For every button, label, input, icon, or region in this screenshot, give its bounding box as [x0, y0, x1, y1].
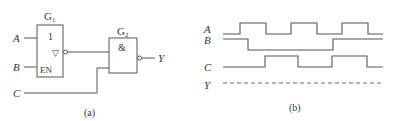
gate2-label: G2 [117, 25, 129, 39]
signal-y-label: Y [204, 79, 212, 91]
gate2-inverter-bubble-icon [138, 56, 142, 60]
timing-diagram: A B C Y (b) [203, 23, 383, 114]
gate1-inverter-bubble-icon [64, 50, 68, 54]
input-b-label: B [13, 61, 20, 73]
input-a-label: A [12, 32, 20, 44]
gate2-symbol: & [118, 42, 126, 53]
signal-b-label: B [204, 34, 211, 46]
caption-b: (b) [289, 102, 301, 114]
enable-label: EN [40, 65, 52, 75]
waveform-a [223, 23, 383, 34]
output-y-label: Y [158, 52, 166, 64]
caption-a: (a) [84, 107, 95, 119]
logic-diagram: G1 1 ▽ EN A B C G2 & Y (a) A B C Y [0, 0, 393, 121]
tristate-triangle-icon: ▽ [52, 48, 59, 58]
gate1-symbol: 1 [48, 31, 53, 42]
waveform-c [223, 56, 383, 67]
gate1-label: G1 [44, 10, 56, 24]
input-c-label: C [13, 87, 21, 99]
circuit-schematic: G1 1 ▽ EN A B C G2 & Y (a) [12, 10, 166, 119]
waveform-b [223, 39, 383, 50]
signal-c-label: C [204, 61, 212, 73]
